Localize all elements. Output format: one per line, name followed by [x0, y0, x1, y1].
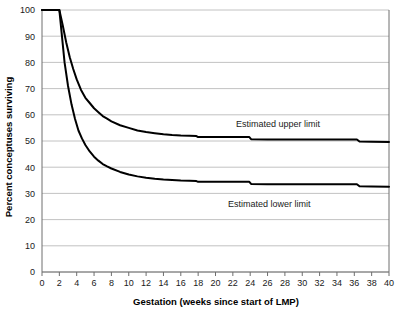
x-tick-label-34: 34 [332, 278, 342, 288]
x-tick-label-32: 32 [315, 278, 325, 288]
x-tick-label-20: 20 [210, 278, 220, 288]
y-tick-label-100: 100 [20, 5, 35, 15]
x-tick-labels: 0246810121416182022242628303234363840 [39, 278, 394, 288]
chart-background [0, 0, 402, 311]
x-tick-label-38: 38 [367, 278, 377, 288]
y-tick-label-20: 20 [25, 215, 35, 225]
y-tick-label-70: 70 [25, 84, 35, 94]
x-tick-label-2: 2 [57, 278, 62, 288]
x-tick-label-12: 12 [141, 278, 151, 288]
y-tick-label-90: 90 [25, 32, 35, 42]
x-tick-label-8: 8 [109, 278, 114, 288]
x-tick-label-16: 16 [176, 278, 186, 288]
y-tick-label-30: 30 [25, 189, 35, 199]
x-tick-label-30: 30 [297, 278, 307, 288]
annotation-upper-limit: Estimated upper limit [236, 119, 321, 129]
y-tick-label-10: 10 [25, 241, 35, 251]
x-axis-title: Gestation (weeks since start of LMP) [133, 296, 299, 307]
survival-curve-chart: 0102030405060708090100 02468101214161820… [0, 0, 402, 311]
x-tick-label-36: 36 [349, 278, 359, 288]
y-tick-label-80: 80 [25, 58, 35, 68]
x-tick-label-18: 18 [193, 278, 203, 288]
y-tick-label-50: 50 [25, 136, 35, 146]
y-tick-label-0: 0 [30, 267, 35, 277]
y-tick-label-40: 40 [25, 163, 35, 173]
x-tick-label-10: 10 [124, 278, 134, 288]
x-tick-label-28: 28 [280, 278, 290, 288]
x-tick-label-14: 14 [158, 278, 168, 288]
x-tick-marks [42, 272, 389, 276]
chart-container: 0102030405060708090100 02468101214161820… [0, 0, 402, 311]
x-tick-label-40: 40 [384, 278, 394, 288]
x-tick-label-4: 4 [74, 278, 79, 288]
x-tick-label-26: 26 [263, 278, 273, 288]
annotation-lower-limit: Estimated lower limit [228, 199, 311, 209]
x-tick-label-24: 24 [245, 278, 255, 288]
y-tick-label-60: 60 [25, 110, 35, 120]
x-tick-label-6: 6 [92, 278, 97, 288]
x-tick-label-22: 22 [228, 278, 238, 288]
x-tick-label-0: 0 [39, 278, 44, 288]
y-axis-title: Percent conceptuses surviving [3, 77, 14, 218]
